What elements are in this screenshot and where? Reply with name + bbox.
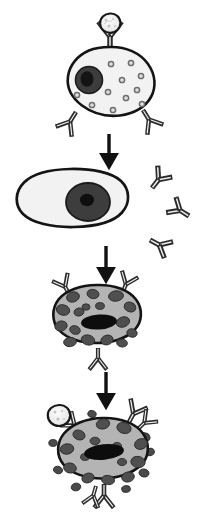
cell-body-stage-1 — [68, 47, 155, 116]
antigen-particle — [100, 13, 120, 32]
antigen-particle-bound — [48, 405, 70, 426]
cell-body-stage-2 — [17, 169, 128, 227]
nucleus-stage-1 — [76, 67, 103, 94]
diagram-canvas — [0, 0, 218, 515]
immune-sequence-svg — [0, 0, 218, 515]
nucleus-stage-2 — [66, 183, 110, 221]
